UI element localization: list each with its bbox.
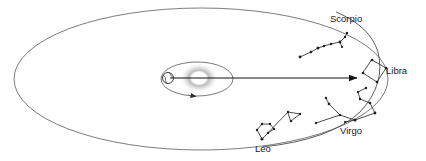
star xyxy=(339,114,341,116)
star xyxy=(310,51,313,54)
star xyxy=(341,46,343,48)
leo-sickle-lines xyxy=(257,124,274,139)
star xyxy=(328,103,331,106)
star xyxy=(287,111,289,113)
star xyxy=(290,120,292,122)
astronomy-diagram: Scorpio Libra Virgo xyxy=(0,0,426,161)
virgo-branch xyxy=(316,115,340,123)
constellation-label-scorpio: Scorpio xyxy=(330,13,362,24)
star xyxy=(344,121,346,123)
star xyxy=(330,43,332,45)
star xyxy=(371,59,374,62)
star xyxy=(315,122,317,124)
constellation-label-virgo: Virgo xyxy=(340,125,362,136)
leo-triangle xyxy=(288,112,300,121)
libra-lines xyxy=(363,60,386,82)
diagram-canvas: Scorpio Libra Virgo xyxy=(0,0,426,161)
star xyxy=(369,102,372,105)
star xyxy=(261,123,263,125)
constellation-label-libra: Libra xyxy=(386,65,408,76)
star xyxy=(299,113,301,115)
star xyxy=(359,98,361,100)
star xyxy=(339,41,342,44)
constellation-scorpio: Scorpio xyxy=(299,13,363,58)
star xyxy=(317,47,320,50)
star xyxy=(362,72,365,75)
star xyxy=(374,112,377,115)
leo-connector xyxy=(262,112,288,139)
star xyxy=(260,137,263,140)
star xyxy=(273,128,275,130)
star xyxy=(256,129,258,131)
star xyxy=(323,45,325,47)
constellation-label-leo: Leo xyxy=(255,143,271,154)
star xyxy=(267,132,269,134)
constellation-leo: Leo xyxy=(255,111,301,154)
zodiac-band-arc xyxy=(262,12,380,147)
constellation-libra: Libra xyxy=(362,59,408,84)
star xyxy=(365,87,367,89)
star xyxy=(299,56,302,59)
star xyxy=(269,123,271,125)
star xyxy=(354,119,357,122)
star xyxy=(325,97,327,99)
star xyxy=(376,81,379,84)
star xyxy=(344,36,346,38)
star xyxy=(357,91,359,93)
star xyxy=(346,32,348,34)
virgo-lines xyxy=(326,88,375,120)
